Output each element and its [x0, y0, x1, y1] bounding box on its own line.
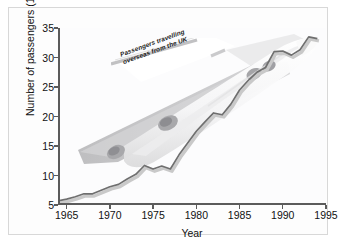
x-tick-label-1995: 1995 [314, 209, 337, 221]
axes [58, 28, 326, 205]
y-tick-label-5: 5 [48, 199, 54, 211]
chart-figure: Number of passengers (106) [0, 0, 339, 247]
y-axis-line [58, 28, 60, 205]
y-axis-title: Number of passengers (106) [23, 0, 36, 116]
x-tick-label-1970: 1970 [98, 209, 121, 221]
y-tick-mark [54, 204, 58, 205]
x-tick-label-1990: 1990 [271, 209, 294, 221]
y-tick-mark [54, 27, 58, 28]
y-tick-mark [54, 57, 58, 58]
y-tick-label-10: 10 [42, 170, 54, 182]
y-tick-mark [54, 145, 58, 146]
x-tick-label-1965: 1965 [55, 209, 78, 221]
y-tick-label-20: 20 [42, 111, 54, 123]
y-tick-mark [54, 116, 58, 117]
x-tick-label-1980: 1980 [185, 209, 208, 221]
figure-border: Number of passengers (106) [8, 7, 328, 235]
x-tick-label-1985: 1985 [228, 209, 251, 221]
y-tick-label-30: 30 [42, 52, 54, 64]
x-axis-line [58, 203, 326, 205]
x-tick-label-1975: 1975 [141, 209, 164, 221]
y-tick-mark [54, 175, 58, 176]
plot-area: Passengers travelling overseas from the … [58, 28, 326, 205]
y-axis-title-base: Number of passengers (10 [24, 0, 36, 116]
y-tick-label-25: 25 [42, 81, 54, 93]
y-tick-label-15: 15 [42, 140, 54, 152]
x-axis-title: Year [58, 227, 326, 239]
y-tick-label-35: 35 [42, 22, 54, 34]
y-tick-mark [54, 86, 58, 87]
